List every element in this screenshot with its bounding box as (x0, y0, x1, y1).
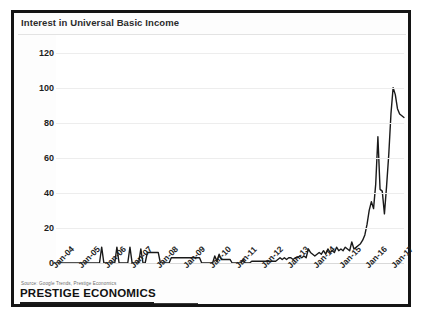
y-tick-label-100: 100 (24, 83, 54, 93)
source-note: Source: Google Trends, Prestige Economic… (21, 281, 116, 286)
brand-underline-extension (154, 303, 198, 304)
gridline-80 (56, 123, 404, 124)
y-tick-label-120: 120 (24, 48, 54, 58)
gridline-120 (56, 53, 404, 54)
chart-plot-block: 020406080100120 (18, 35, 408, 263)
y-axis: 020406080100120 (18, 35, 54, 263)
gridline-60 (56, 158, 404, 159)
slide-frame: Interest in Universal Basic Income 02040… (11, 10, 411, 307)
chart-title: Interest in Universal Basic Income (21, 17, 179, 28)
screenshot-page: Interest in Universal Basic Income 02040… (0, 0, 422, 317)
series-path (56, 88, 404, 263)
gridline-20 (56, 228, 404, 229)
brand-logo: PRESTIGE ECONOMICS (20, 287, 156, 299)
y-tick-label-40: 40 (24, 188, 54, 198)
plot-area (56, 35, 404, 263)
brand-underline (20, 302, 154, 304)
gridline-100 (56, 88, 404, 89)
y-tick-label-60: 60 (24, 153, 54, 163)
gridline-40 (56, 193, 404, 194)
slide-canvas: Interest in Universal Basic Income 02040… (14, 13, 408, 304)
scan-margin (0, 0, 422, 9)
y-tick-label-20: 20 (24, 223, 54, 233)
y-tick-label-80: 80 (24, 118, 54, 128)
